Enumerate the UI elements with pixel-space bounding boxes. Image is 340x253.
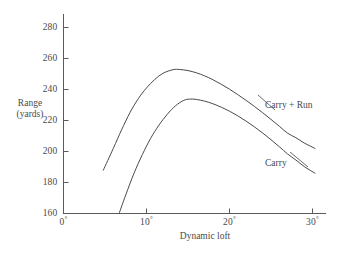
series-line-carry-run bbox=[103, 69, 315, 170]
y-tick-label: 240 bbox=[32, 84, 58, 94]
series-label-carry-run: Carry + Run bbox=[265, 100, 313, 110]
x-tick-label: 20° bbox=[215, 217, 245, 227]
data-series-group bbox=[103, 69, 315, 213]
y-tick-label: 200 bbox=[32, 146, 58, 156]
leader-line-carry bbox=[290, 152, 308, 167]
x-tick-label: 10° bbox=[132, 217, 162, 227]
x-tick-label: 30° bbox=[298, 217, 328, 227]
x-tick-label: 0° bbox=[49, 217, 79, 227]
y-axis-ticks bbox=[64, 28, 69, 214]
y-axis-title-line1: Range bbox=[6, 98, 54, 109]
y-tick-label: 260 bbox=[32, 53, 58, 63]
y-tick-label: 220 bbox=[32, 115, 58, 125]
axes bbox=[63, 14, 326, 214]
y-tick-label: 280 bbox=[32, 22, 58, 32]
series-label-carry: Carry bbox=[265, 158, 287, 168]
chart-figure: Range (yards) Dynamic loft Carry + Run C… bbox=[0, 0, 340, 253]
y-tick-label: 180 bbox=[32, 177, 58, 187]
x-axis-title: Dynamic loft bbox=[150, 231, 260, 241]
series-line-carry bbox=[119, 99, 315, 213]
x-axis-ticks bbox=[64, 209, 313, 214]
